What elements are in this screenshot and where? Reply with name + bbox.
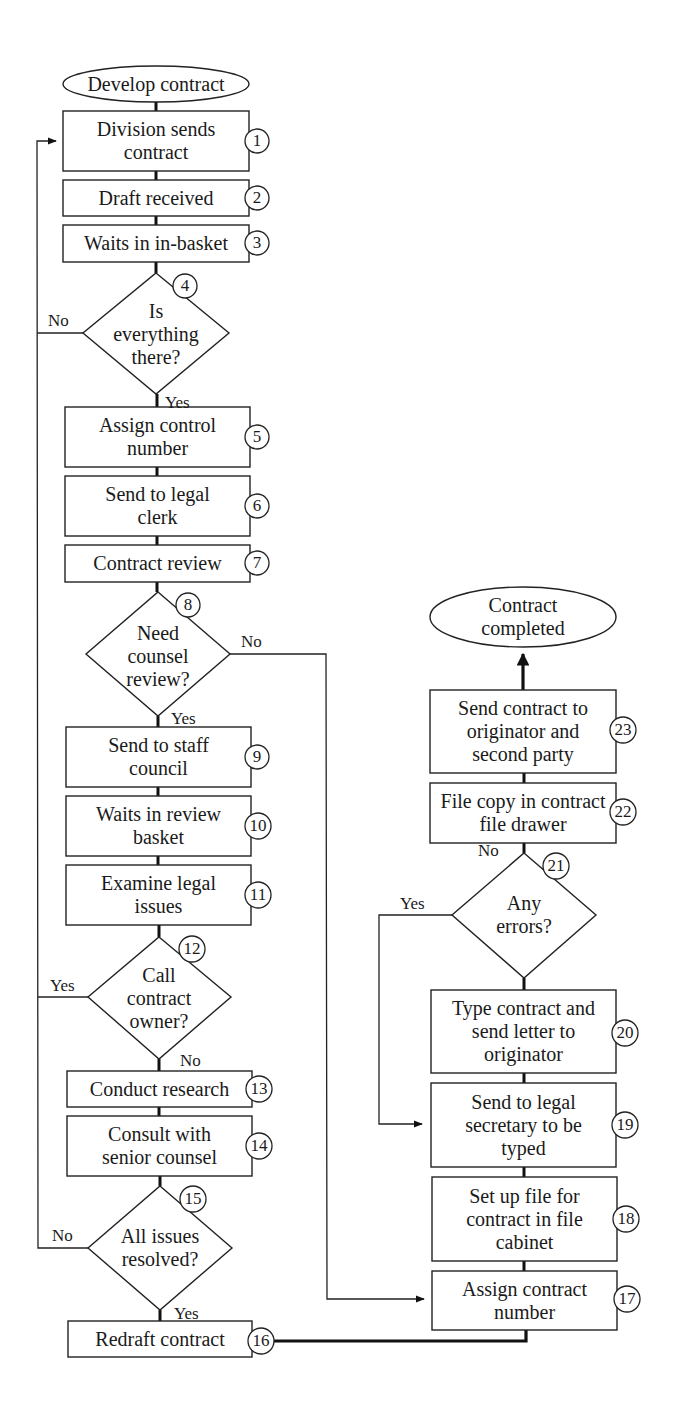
step-18-label: Set up file for contract in file cabinet — [432, 1177, 617, 1261]
step-number-4: 4 — [172, 273, 198, 299]
step-number-22: 22 — [610, 799, 636, 825]
step-number-12: 12 — [179, 936, 205, 962]
connector-16-to-17 — [274, 1330, 526, 1341]
step-2-label: Draft received — [63, 180, 249, 216]
step-23-label: Send contract to originator and second p… — [430, 690, 616, 773]
start-label: Develop contract — [63, 72, 249, 96]
step-number-13: 13 — [246, 1076, 272, 1102]
step-number-5: 5 — [244, 424, 270, 450]
step-number-3: 3 — [244, 230, 270, 256]
step-8-label: Need counsel review? — [106, 618, 210, 694]
step-16-label: Redraft contract — [68, 1321, 252, 1357]
step-4-label: Is everything there? — [99, 296, 213, 372]
step-number-9: 9 — [244, 744, 270, 770]
step-number-20: 20 — [612, 1020, 638, 1046]
edge-label-12-yes: Yes — [50, 977, 75, 995]
edge-label-8-yes: Yes — [171, 710, 196, 728]
step-7-label: Contract review — [65, 545, 250, 582]
step-number-2: 2 — [244, 185, 270, 211]
edge-label-12-no: No — [180, 1052, 201, 1070]
edge-label-4-yes: Yes — [165, 394, 190, 412]
step-5-label: Assign control number — [65, 407, 250, 467]
step-number-15: 15 — [180, 1186, 206, 1212]
step-6-label: Send to legal clerk — [65, 476, 250, 536]
end-label: Contract completed — [430, 590, 616, 644]
edge-label-21-no: No — [478, 842, 499, 860]
step-number-18: 18 — [613, 1206, 639, 1232]
step-11-label: Examine legal issues — [66, 865, 251, 925]
step-number-19: 19 — [612, 1112, 638, 1138]
step-number-23: 23 — [610, 717, 636, 743]
step-number-1: 1 — [244, 128, 270, 154]
end-label-text: Contract completed — [468, 594, 578, 640]
step-10-label: Waits in review basket — [66, 796, 251, 856]
step-number-11: 11 — [245, 882, 271, 908]
step-number-21: 21 — [543, 853, 569, 879]
step-number-6: 6 — [244, 493, 270, 519]
step-12-label: Call contract owner? — [109, 960, 209, 1036]
step-14-label: Consult with senior counsel — [67, 1116, 252, 1176]
step-1-label: Division sends contract — [63, 111, 249, 171]
step-number-10: 10 — [245, 813, 271, 839]
step-9-label: Send to staff council — [66, 727, 251, 787]
step-21-label: Any errors? — [484, 890, 564, 940]
edge-label-4-no: No — [48, 312, 69, 330]
step-13-label: Conduct research — [67, 1071, 252, 1107]
step-15-label: All issues resolved? — [108, 1210, 212, 1286]
edge-label-8-no: No — [241, 633, 262, 651]
step-number-14: 14 — [246, 1133, 272, 1159]
edge-label-15-yes: Yes — [174, 1305, 199, 1323]
step-number-7: 7 — [244, 550, 270, 576]
step-20-label: Type contract and send letter to origina… — [431, 990, 616, 1073]
step-17-label: Assign contract number — [432, 1271, 617, 1330]
edge-label-15-no: No — [52, 1227, 73, 1245]
edge-label-21-yes: Yes — [400, 895, 425, 913]
step-22-label: File copy in contract file drawer — [430, 783, 616, 843]
step-number-16: 16 — [248, 1328, 274, 1354]
step-19-label: Send to legal secretary to be typed — [431, 1083, 616, 1167]
step-number-17: 17 — [614, 1286, 640, 1312]
step-3-label: Waits in in-basket — [63, 225, 249, 262]
step-number-8: 8 — [175, 592, 201, 618]
